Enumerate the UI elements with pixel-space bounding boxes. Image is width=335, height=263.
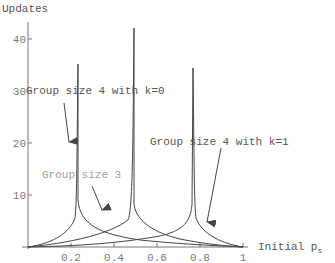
x-tick-0.6: 0.6	[147, 252, 167, 263]
arrow-group3	[92, 186, 102, 210]
x-axis-label-sub: s	[317, 246, 322, 255]
x-tick-0.2: 0.2	[61, 252, 81, 263]
x-axis-label-main: Initial p	[258, 241, 317, 253]
x-tick-0.4: 0.4	[104, 252, 124, 263]
annotation-group4-k0: Group size 4 with k=0	[26, 85, 165, 97]
y-tick-10: 10	[13, 190, 26, 202]
curve-group3-left	[28, 28, 134, 247]
y-tick-30: 30	[13, 86, 26, 98]
chart: 10 20 30 40 0.2 0.4 0.6 0.8 1 Updates In…	[0, 0, 335, 263]
arrow-group4-k1	[207, 148, 221, 222]
x-tick-1: 1	[240, 252, 247, 263]
x-axis-label: Initial ps	[258, 241, 322, 255]
y-tick-20: 20	[13, 138, 26, 150]
annotation-group3: Group size 3	[42, 169, 121, 181]
annotation-group4-k1: Group size 4 with k=1	[150, 136, 289, 148]
y-axis-label: Updates	[2, 3, 48, 15]
y-tick-40: 40	[13, 34, 26, 46]
x-tick-0.8: 0.8	[190, 252, 210, 263]
arrow-group4-k0	[64, 103, 69, 142]
curve-group4-k1-right	[193, 68, 243, 247]
y-ticks	[28, 39, 32, 195]
